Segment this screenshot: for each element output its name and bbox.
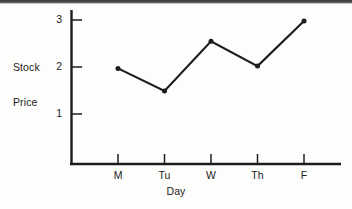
data-line-stock-price (118, 21, 304, 91)
y-axis-title-line-1: Stock (13, 62, 40, 74)
data-point-m (116, 66, 121, 71)
stock-price-line-chart: 3 2 1 M Tu W Th F Stock Price Day (0, 0, 352, 209)
y-tick-label-3: 3 (48, 14, 62, 25)
x-tick-label-tu: Tu (151, 170, 179, 181)
y-axis-title-line-2: Price (13, 97, 40, 109)
data-point-w (209, 39, 214, 44)
x-tick-label-w: W (197, 170, 225, 181)
y-tick-label-1: 1 (48, 108, 62, 119)
data-point-tu (162, 88, 167, 93)
data-point-f (302, 19, 307, 24)
x-tick-label-th: Th (244, 170, 272, 181)
x-tick-label-f: F (290, 170, 318, 181)
x-axis-title: Day (0, 186, 352, 198)
y-tick-label-2: 2 (48, 61, 62, 72)
x-tick-label-m: M (104, 170, 132, 181)
data-point-th (255, 64, 260, 69)
y-axis-title: Stock Price (13, 39, 40, 131)
